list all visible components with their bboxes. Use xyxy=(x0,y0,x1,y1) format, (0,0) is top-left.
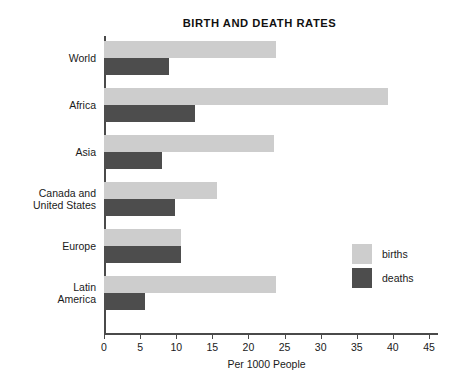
x-tick-mark xyxy=(429,334,430,339)
bar-deaths xyxy=(104,152,162,169)
plot-area xyxy=(104,36,429,333)
bar-births xyxy=(104,41,276,58)
x-tick-label: 10 xyxy=(161,341,191,353)
category-label: Canada and United States xyxy=(33,187,96,212)
bar-deaths xyxy=(104,105,195,122)
category-label: Latin America xyxy=(57,281,96,306)
bar-deaths xyxy=(104,293,145,310)
category-label: Europe xyxy=(62,240,96,253)
x-axis-title: Per 1000 People xyxy=(104,358,429,370)
x-tick-label: 20 xyxy=(233,341,263,353)
x-tick-mark xyxy=(393,334,394,339)
x-tick-label: 30 xyxy=(306,341,336,353)
x-tick-mark xyxy=(357,334,358,339)
category-label: World xyxy=(69,52,96,65)
x-tick-label: 0 xyxy=(89,341,119,353)
category-label: Africa xyxy=(69,99,96,112)
x-tick-label: 5 xyxy=(125,341,155,353)
x-tick-label: 40 xyxy=(378,341,408,353)
bar-deaths xyxy=(104,246,181,263)
bar-deaths xyxy=(104,199,175,216)
x-tick-label: 45 xyxy=(414,341,444,353)
bar-births xyxy=(104,229,181,246)
x-tick-label: 15 xyxy=(197,341,227,353)
chart-title: BIRTH AND DEATH RATES xyxy=(0,17,469,29)
x-tick-mark xyxy=(212,334,213,339)
bar-births xyxy=(104,88,388,105)
x-tick-label: 35 xyxy=(342,341,372,353)
legend-swatch-births xyxy=(352,244,372,264)
x-tick-mark xyxy=(321,334,322,339)
x-tick-label: 25 xyxy=(270,341,300,353)
x-tick-mark xyxy=(285,334,286,339)
birth-death-rates-chart: BIRTH AND DEATH RATES 051015202530354045… xyxy=(0,0,469,389)
bar-deaths xyxy=(104,58,169,75)
x-tick-mark xyxy=(248,334,249,339)
category-label: Asia xyxy=(76,146,96,159)
bar-births xyxy=(104,276,276,293)
legend-label-births: births xyxy=(382,248,408,260)
legend-swatch-deaths xyxy=(352,268,372,288)
bar-births xyxy=(104,182,217,199)
legend-label-deaths: deaths xyxy=(382,272,414,284)
bar-births xyxy=(104,135,274,152)
x-axis-line xyxy=(104,333,438,335)
x-tick-mark xyxy=(176,334,177,339)
x-tick-mark xyxy=(104,334,105,339)
x-tick-mark xyxy=(140,334,141,339)
